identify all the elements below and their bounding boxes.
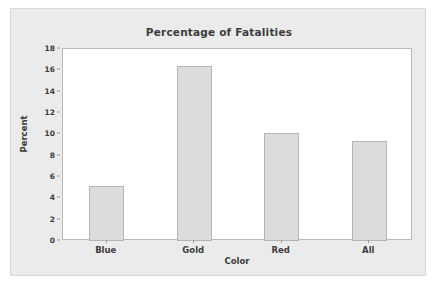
y-axis-ticks: 024681012141618 xyxy=(28,48,60,240)
y-tick-mark xyxy=(57,197,60,198)
x-tick-mark xyxy=(193,240,194,243)
y-tick-label: 10 xyxy=(45,129,55,138)
y-tick-label: 18 xyxy=(45,44,55,53)
x-tick-mark xyxy=(281,240,282,243)
y-tick-label: 0 xyxy=(50,236,55,245)
y-tick-mark xyxy=(57,112,60,113)
bar-red xyxy=(264,133,299,241)
y-tick-label: 4 xyxy=(50,193,55,202)
y-tick-label: 2 xyxy=(50,214,55,223)
y-tick-mark xyxy=(57,218,60,219)
y-tick-label: 12 xyxy=(45,108,55,117)
x-tick-label-gold: Gold xyxy=(182,245,204,255)
bar-all xyxy=(352,141,387,241)
x-tick-label-blue: Blue xyxy=(95,245,116,255)
x-tick-label-red: Red xyxy=(272,245,290,255)
x-axis-title: Color xyxy=(62,256,412,266)
y-tick-mark xyxy=(57,176,60,177)
bar-gold xyxy=(177,66,212,241)
x-tick-mark xyxy=(368,240,369,243)
y-tick-label: 16 xyxy=(45,65,55,74)
y-tick-mark xyxy=(57,69,60,70)
y-tick-label: 14 xyxy=(45,86,55,95)
y-tick-label: 6 xyxy=(50,172,55,181)
plot-area xyxy=(62,48,412,240)
bar-blue xyxy=(89,186,124,241)
bars-layer xyxy=(63,49,411,239)
chart-panel: Percentage of Fatalities Percent 0246810… xyxy=(10,8,426,276)
y-tick-mark xyxy=(57,90,60,91)
x-tick-mark xyxy=(106,240,107,243)
chart-screenshot: Percentage of Fatalities Percent 0246810… xyxy=(0,0,446,293)
y-tick-label: 8 xyxy=(50,150,55,159)
y-tick-mark xyxy=(57,48,60,49)
y-tick-mark xyxy=(57,133,60,134)
x-tick-label-all: All xyxy=(362,245,374,255)
chart-title: Percentage of Fatalities xyxy=(11,26,427,38)
y-tick-mark xyxy=(57,240,60,241)
y-tick-mark xyxy=(57,154,60,155)
